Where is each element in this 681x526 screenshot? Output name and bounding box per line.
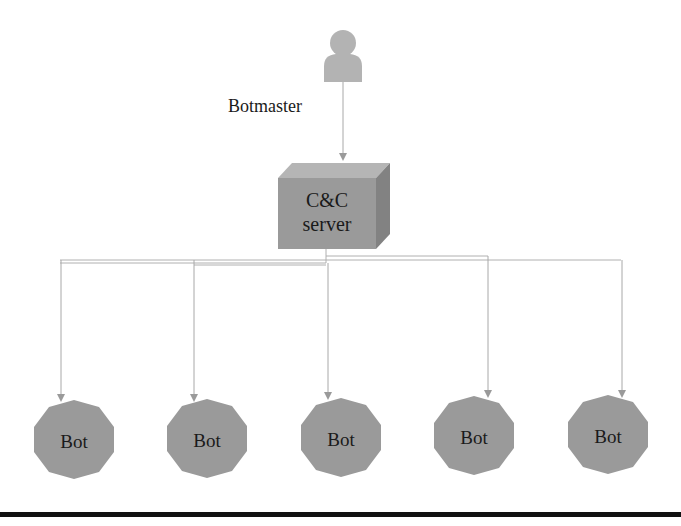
server-to-bot-arrows <box>61 256 622 398</box>
bot-4-label: Bot <box>429 427 519 449</box>
bottom-rule <box>0 512 681 517</box>
bot-2-label: Bot <box>162 430 252 452</box>
botmaster-label: Botmaster <box>228 96 302 117</box>
bot-3-label: Bot <box>296 429 386 451</box>
bot-5-label: Bot <box>563 426 653 448</box>
person-icon <box>324 30 362 82</box>
bot-1-label: Bot <box>29 431 119 453</box>
connector-lines <box>60 249 621 265</box>
server-label: C&C server <box>278 188 376 236</box>
server-label-line2: server <box>278 212 376 236</box>
server-label-line1: C&C <box>278 188 376 212</box>
